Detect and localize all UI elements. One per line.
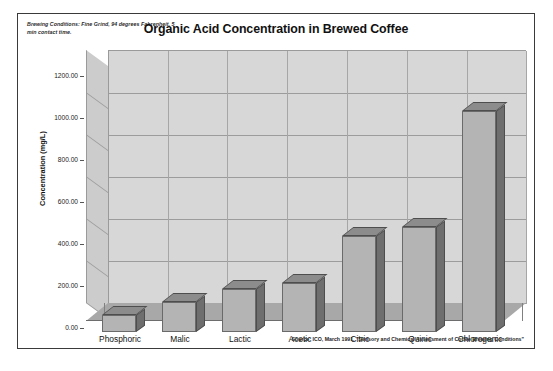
bar-front-face xyxy=(402,227,436,332)
y-tick-label: 200.00 xyxy=(32,282,78,289)
y-tick-label: 800.00 xyxy=(32,156,78,163)
bar-phosphoric[interactable] xyxy=(102,61,136,332)
bar-front-face xyxy=(462,111,496,332)
y-tick-label: 1200.00 xyxy=(32,72,78,79)
y-tick-mark xyxy=(80,244,84,245)
source-attribution: Source: ICO, March 1991, "Sensory and Ch… xyxy=(292,336,524,342)
y-tick-mark xyxy=(80,286,84,287)
gridline-vertical xyxy=(526,51,527,304)
bar-malic[interactable] xyxy=(162,61,196,332)
bar-side-face xyxy=(256,282,265,332)
bar-front-face xyxy=(222,289,256,332)
y-tick-mark xyxy=(80,160,84,161)
y-axis-tick-labels: 1200.00 1000.00 800.00 600.00 400.00 200… xyxy=(30,50,78,332)
chart-title: Organic Acid Concentration in Brewed Cof… xyxy=(18,22,534,36)
x-tick-mark xyxy=(522,303,523,321)
bar-citric[interactable] xyxy=(342,61,376,332)
bar-acetic[interactable] xyxy=(282,61,316,332)
y-tick-label: 600.00 xyxy=(32,198,78,205)
chart-frame: Brewing Conditions: Fine Grind, 94 degre… xyxy=(17,13,535,349)
bar-side-face xyxy=(376,229,385,332)
y-tick-mark xyxy=(80,328,84,329)
bar-side-face xyxy=(496,104,505,332)
y-tick-mark xyxy=(80,202,84,203)
bar-side-face xyxy=(316,276,325,332)
bar-front-face xyxy=(102,315,136,332)
plot-area xyxy=(86,50,526,332)
y-tick-mark xyxy=(80,118,84,119)
y-tick-mark xyxy=(80,76,84,77)
y-tick-label: 0.00 xyxy=(32,324,78,331)
bar-front-face xyxy=(342,236,376,332)
bar-chlorogenic[interactable] xyxy=(462,61,496,332)
y-tick-label: 1000.00 xyxy=(32,114,78,121)
y-tick-label: 400.00 xyxy=(32,240,78,247)
bar-front-face xyxy=(282,283,316,332)
bar-front-face xyxy=(162,302,196,332)
bar-lactic[interactable] xyxy=(222,61,256,332)
bar-quinic[interactable] xyxy=(402,61,436,332)
bar-side-face xyxy=(436,220,445,332)
